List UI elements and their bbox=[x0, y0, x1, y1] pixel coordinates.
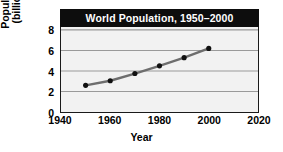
data-point bbox=[108, 78, 113, 83]
data-point bbox=[157, 63, 162, 68]
x-axis-label: Year bbox=[0, 131, 283, 143]
x-tick-label: 1960 bbox=[98, 115, 121, 126]
x-axis-ticks: 19401960198020002020 bbox=[0, 115, 283, 129]
y-axis-ticks: 02468 bbox=[32, 0, 54, 152]
chart-title: World Population, 1950–2000 bbox=[86, 12, 234, 24]
data-line bbox=[86, 48, 209, 85]
chart-title-bar: World Population, 1950–2000 bbox=[60, 9, 259, 27]
data-point bbox=[83, 83, 88, 88]
data-point bbox=[206, 46, 211, 51]
y-tick-label: 6 bbox=[40, 46, 54, 57]
data-point bbox=[132, 71, 137, 76]
x-tick-label: 1980 bbox=[148, 115, 171, 126]
x-tick-label: 2000 bbox=[198, 115, 221, 126]
y-axis-label: Population (billions) bbox=[0, 0, 22, 48]
x-tick-label: 2020 bbox=[247, 115, 270, 126]
y-tick-label: 2 bbox=[40, 87, 54, 98]
plot-area bbox=[60, 27, 259, 113]
y-tick-label: 4 bbox=[40, 66, 54, 77]
plot-svg bbox=[61, 27, 258, 112]
x-tick-label: 1940 bbox=[48, 115, 71, 126]
chart-figure: Population (billions) 02468 World Popula… bbox=[0, 0, 283, 152]
data-point bbox=[182, 55, 187, 60]
y-tick-label: 8 bbox=[40, 25, 54, 36]
y-axis-label-line2: (billions) bbox=[11, 0, 22, 23]
